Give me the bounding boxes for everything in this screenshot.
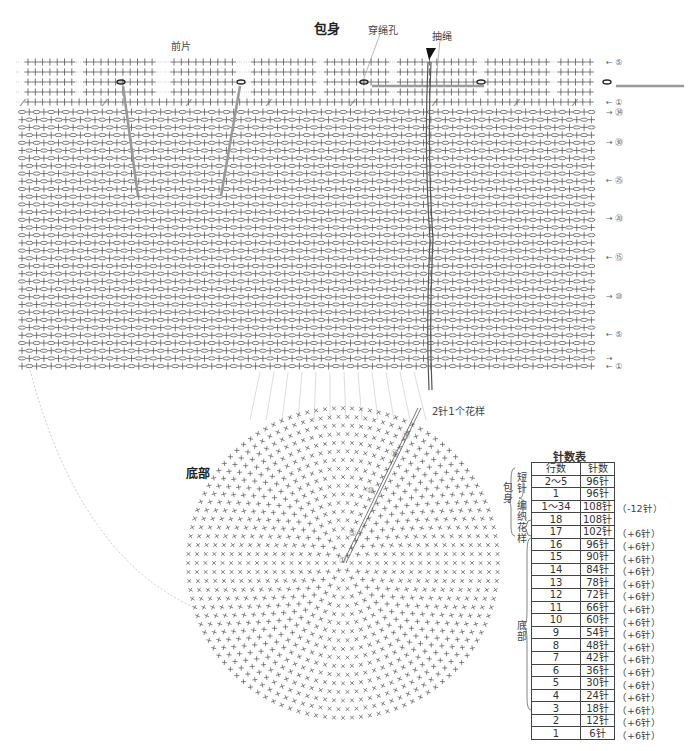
row-number-cell: 8 xyxy=(532,639,581,652)
stitch-count-cell: 42针 xyxy=(581,651,615,664)
header-rows: 行数 xyxy=(532,463,581,476)
svg-text:⁄: ⁄ xyxy=(513,98,520,108)
row-number-cell: 9 xyxy=(532,626,581,639)
table-row: 16针 xyxy=(532,727,615,740)
row-number-cell: 5 xyxy=(532,677,581,690)
stitch-count-cell: 30针 xyxy=(581,677,615,690)
stitch-count-cell: 60针 xyxy=(581,614,615,627)
table-row: 530针 xyxy=(532,677,615,690)
radial-row-marker: ⑱ xyxy=(402,431,410,440)
row-marker: → ⑩ xyxy=(606,292,622,301)
stitch-count-cell: 66针 xyxy=(581,601,615,614)
stitch-count-cell: 96针 xyxy=(581,538,615,551)
row-number-cell: 12 xyxy=(532,588,581,601)
table-row: 2～596针 xyxy=(532,475,615,488)
svg-text:⁄: ⁄ xyxy=(185,98,192,108)
row-number-cell: 1～34 xyxy=(532,500,581,513)
row-number-cell: 14 xyxy=(532,563,581,576)
table-row: 1272针 xyxy=(532,588,615,601)
row-number-cell: 7 xyxy=(532,651,581,664)
table-row: 1590针 xyxy=(532,551,615,564)
svg-text:⁄: ⁄ xyxy=(571,98,578,108)
radial-row-marker: ⑩ xyxy=(367,486,374,495)
row-number-cell: 18 xyxy=(532,513,581,526)
stitch-count-cell: 54针 xyxy=(581,626,615,639)
table-row: 212针 xyxy=(532,714,615,727)
table-row: 1166针 xyxy=(532,601,615,614)
row-marker: ← ⑮ xyxy=(606,253,623,262)
table-row: 848针 xyxy=(532,639,615,652)
radial-row-marker: ⑤ xyxy=(349,529,356,538)
row-number-cell: 6 xyxy=(532,664,581,677)
table-row: 17102针 xyxy=(532,525,615,538)
table-row: 1～34108针 xyxy=(532,500,615,513)
svg-text:⁄: ⁄ xyxy=(101,98,108,108)
increase-note: （+6针） xyxy=(617,728,661,742)
radial-row-marker: ⑮ xyxy=(391,449,399,458)
row-number-cell: 17 xyxy=(532,525,581,538)
row-marker: → ㉚ xyxy=(606,138,623,147)
table-row: 196针 xyxy=(532,488,615,501)
row-number-cell: 11 xyxy=(532,601,581,614)
stitch-count-cell: 108针 xyxy=(581,513,615,526)
stitch-table-body: 2～596针196针1～34108针18108针17102针1696针1590针… xyxy=(532,475,615,739)
table-row: 1378针 xyxy=(532,576,615,589)
row-number-cell: 16 xyxy=(532,538,581,551)
stitch-count-cell: 18针 xyxy=(581,702,615,715)
row-marker: ← ① xyxy=(606,362,622,371)
table-header-row: 行数 针数 xyxy=(532,463,615,476)
table-row: 18108针 xyxy=(532,513,615,526)
stitch-count-cell: 12针 xyxy=(581,714,615,727)
stitch-count-cell: 108针 xyxy=(581,500,615,513)
row-number-cell: 3 xyxy=(532,702,581,715)
stitch-count-cell: 6针 xyxy=(581,727,615,740)
svg-text:⁄: ⁄ xyxy=(349,98,356,108)
stitch-count-cell: 84针 xyxy=(581,563,615,576)
stitch-count-cell: 78针 xyxy=(581,576,615,589)
table-row: 954针 xyxy=(532,626,615,639)
table-row: 1696针 xyxy=(532,538,615,551)
row-number-cell: 1 xyxy=(532,488,581,501)
increase-note: （-12针） xyxy=(617,501,663,515)
stitch-count-cell: 102针 xyxy=(581,525,615,538)
table-row: 636针 xyxy=(532,664,615,677)
row-marker: ← ㉕ xyxy=(606,176,623,185)
row-marker: ← ⑤ xyxy=(606,330,622,339)
stitch-count-cell: 72针 xyxy=(581,588,615,601)
svg-text:⁄: ⁄ xyxy=(19,98,26,108)
table-row: 424针 xyxy=(532,689,615,702)
stitch-count-cell: 90针 xyxy=(581,551,615,564)
row-number-cell: 10 xyxy=(532,614,581,627)
row-number-cell: 13 xyxy=(532,576,581,589)
stitch-count-cell: 48针 xyxy=(581,639,615,652)
header-stitches: 针数 xyxy=(581,463,615,476)
row-number-cell: 4 xyxy=(532,689,581,702)
row-marker: → ⑳ xyxy=(606,214,623,223)
row-marker: ← ⑤ xyxy=(606,58,622,67)
stitch-count-cell: 36针 xyxy=(581,664,615,677)
row-number-cell: 2～5 xyxy=(532,475,581,488)
svg-text:⁄: ⁄ xyxy=(265,98,272,108)
stitch-count-table: 行数 针数 2～596针196针1～34108针18108针17102针1696… xyxy=(531,462,615,740)
table-row: 318针 xyxy=(532,702,615,715)
stitch-count-cell: 96针 xyxy=(581,488,615,501)
row-number-cell: 1 xyxy=(532,727,581,740)
stitch-count-cell: 24针 xyxy=(581,689,615,702)
row-number-cell: 2 xyxy=(532,714,581,727)
stitch-count-cell: 96针 xyxy=(581,475,615,488)
table-braces xyxy=(505,462,533,714)
row-marker: ← ① xyxy=(606,98,622,107)
row-marker: → ㉞ xyxy=(606,108,623,117)
row-number-cell: 15 xyxy=(532,551,581,564)
radial-row-marker: ① xyxy=(339,556,346,565)
table-row: 1060针 xyxy=(532,614,615,627)
table-row: 1484针 xyxy=(532,563,615,576)
table-row: 742针 xyxy=(532,651,615,664)
